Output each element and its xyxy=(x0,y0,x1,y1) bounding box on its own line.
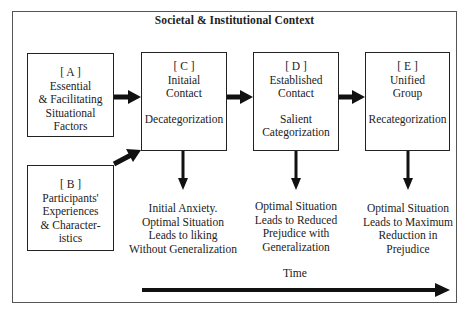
arrow-b-to-c-icon xyxy=(114,149,141,164)
outcome-c-line: Leads to liking xyxy=(128,229,238,243)
outcome-d: Optimal Situation Leads to Reduced Preju… xyxy=(246,200,346,254)
outcome-c-line: Initial Anxiety. xyxy=(128,202,238,216)
time-label: Time xyxy=(283,267,307,279)
outcome-d-line: Optimal Situation xyxy=(246,200,346,214)
arrow-c-down-icon xyxy=(178,151,188,190)
outcome-e-line: Reduction in xyxy=(358,229,458,243)
outcome-e-line: Optimal Situation xyxy=(358,202,458,216)
arrow-d-down-icon xyxy=(291,151,301,190)
outcome-e-line: Prejudice xyxy=(358,243,458,257)
outcome-c-line: Optimal Situation xyxy=(128,216,238,230)
arrow-e-down-icon xyxy=(403,151,413,190)
arrow-a-to-c-icon xyxy=(114,90,141,104)
outcome-d-line: Prejudice with xyxy=(246,227,346,241)
arrow-d-to-e-icon xyxy=(339,90,365,104)
outcome-e: Optimal Situation Leads to Maximum Reduc… xyxy=(358,202,458,256)
outcome-c: Initial Anxiety. Optimal Situation Leads… xyxy=(128,202,238,256)
outcome-d-line: Generalization xyxy=(246,241,346,255)
time-arrow-icon xyxy=(142,283,450,297)
outcome-e-line: Leads to Maximum xyxy=(358,216,458,230)
outcome-c-line: Without Generalization xyxy=(128,243,238,257)
arrows-layer xyxy=(0,0,469,315)
arrow-c-to-d-icon xyxy=(227,90,253,104)
outcome-d-line: Leads to Reduced xyxy=(246,214,346,228)
